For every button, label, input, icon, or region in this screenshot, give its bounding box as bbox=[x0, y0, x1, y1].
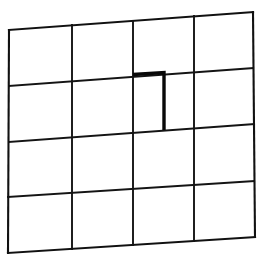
figure-background bbox=[0, 0, 261, 260]
grid-diagram bbox=[0, 0, 261, 260]
figure-root bbox=[0, 0, 261, 260]
vertical-line-0 bbox=[8, 30, 9, 253]
